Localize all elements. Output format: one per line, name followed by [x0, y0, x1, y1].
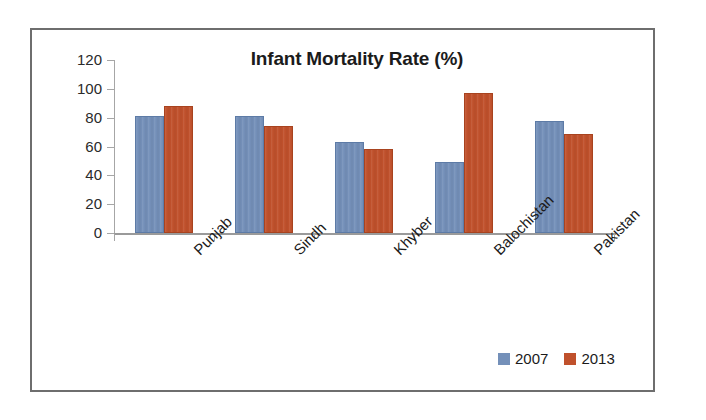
legend-swatch-2013-icon — [564, 353, 576, 365]
bar-balochistan-2007[interactable] — [435, 162, 464, 233]
legend-item-2013[interactable]: 2013 — [564, 350, 614, 367]
y-axis-label: 20 — [54, 195, 102, 212]
y-axis-tick — [107, 204, 114, 205]
legend-swatch-2007-icon — [498, 353, 510, 365]
x-axis-label-punjab: Punjab — [190, 246, 202, 258]
y-axis-tick — [107, 89, 114, 90]
chart-frame: Infant Mortality Rate (%) 12010080604020… — [30, 28, 655, 392]
bar-sindh-2013[interactable] — [264, 126, 293, 233]
x-axis-tick — [114, 234, 115, 241]
y-axis-label: 40 — [54, 166, 102, 183]
bar-balochistan-2013[interactable] — [464, 93, 493, 233]
x-axis-label-pakistan: Pakistan — [590, 246, 602, 258]
bar-punjab-2013[interactable] — [164, 106, 193, 233]
y-axis-tick — [107, 118, 114, 119]
y-axis-label-wrap: 80 — [32, 118, 102, 119]
x-axis-line — [114, 233, 616, 235]
bar-sindh-2007[interactable] — [235, 116, 264, 233]
x-axis-label-balochistan: Balochistan — [490, 246, 502, 258]
y-axis-label-wrap: 60 — [32, 147, 102, 148]
bar-khyber-2007[interactable] — [335, 142, 364, 233]
legend-label: 2007 — [515, 350, 548, 367]
y-axis-tick — [107, 175, 114, 176]
y-axis-tick — [107, 233, 114, 234]
bar-punjab-2007[interactable] — [135, 116, 164, 233]
chart-legend: 20072013 — [498, 350, 615, 367]
chart-title: Infant Mortality Rate (%) — [192, 48, 522, 70]
y-axis-line — [114, 60, 115, 234]
chart-area: Infant Mortality Rate (%) 12010080604020… — [32, 30, 653, 390]
y-axis-label: 0 — [54, 224, 102, 241]
y-axis-label-wrap: 20 — [32, 204, 102, 205]
y-axis-label: 120 — [54, 51, 102, 68]
legend-item-2007[interactable]: 2007 — [498, 350, 548, 367]
x-axis-label-khyber: Khyber — [390, 246, 402, 258]
y-axis-label: 100 — [54, 80, 102, 97]
bar-khyber-2013[interactable] — [364, 149, 393, 233]
y-axis-tick — [107, 60, 114, 61]
y-axis-label-wrap: 40 — [32, 175, 102, 176]
x-axis-label-sindh: Sindh — [290, 246, 302, 258]
y-axis-label-wrap: 0 — [32, 233, 102, 234]
y-axis-tick — [107, 147, 114, 148]
bar-pakistan-2013[interactable] — [564, 134, 593, 233]
y-axis-label-wrap: 100 — [32, 89, 102, 90]
y-axis-label: 60 — [54, 138, 102, 155]
y-axis-label: 80 — [54, 109, 102, 126]
legend-label: 2013 — [581, 350, 614, 367]
y-axis-label-wrap: 120 — [32, 60, 102, 61]
